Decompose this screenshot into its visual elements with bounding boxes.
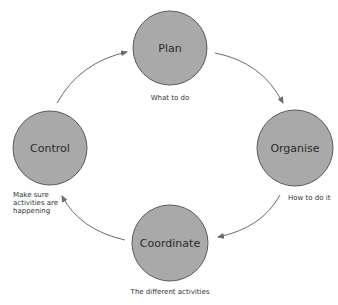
caption-control-line-1: Make sure — [13, 191, 49, 199]
node-label-plan: Plan — [158, 42, 181, 55]
node-control: Control — [13, 111, 87, 185]
arrow-plan-to-organise — [215, 53, 283, 103]
arrow-organise-to-coordinate — [218, 195, 280, 237]
caption-plan: What to do — [151, 94, 190, 102]
node-coordinate: Coordinate — [132, 205, 208, 281]
arrow-coordinate-to-control — [62, 196, 125, 240]
cycle-diagram: Plan What to do Organise How to do it Co… — [0, 0, 338, 305]
node-label-organise: Organise — [270, 142, 319, 155]
caption-organise: How to do it — [288, 194, 331, 202]
node-label-coordinate: Coordinate — [140, 237, 201, 250]
caption-coordinate: The different activities — [130, 288, 210, 296]
caption-control-line-2: activities are — [13, 199, 58, 207]
node-plan: Plan — [133, 11, 207, 85]
node-label-control: Control — [30, 142, 70, 155]
caption-control-line-3: happening — [13, 207, 50, 215]
arrow-control-to-plan — [57, 52, 127, 103]
node-organise: Organise — [257, 110, 333, 186]
